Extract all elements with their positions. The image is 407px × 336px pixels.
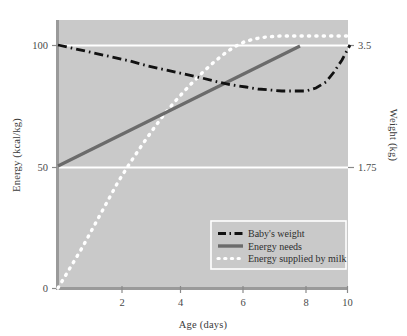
xtick-label-4: 4 [178, 297, 184, 308]
xtick-label-6: 6 [240, 297, 245, 308]
xtick-label-2: 2 [119, 297, 124, 308]
ytick-label-50: 50 [38, 162, 49, 173]
plot-area-background [57, 20, 348, 290]
ytick-label-100: 100 [32, 40, 48, 51]
y-axis-title: Energy (kcal/kg) [11, 118, 23, 192]
chart-canvas: Baby's weight Energy needs Energy suppli… [0, 0, 407, 336]
y2tick-label-3-5: 3.5 [358, 40, 371, 51]
legend-label-energy-needs: Energy needs [248, 241, 302, 252]
y2-axis-title: Weight (kg) [387, 109, 399, 162]
y2tick-label-1-75: 1.75 [358, 162, 376, 173]
xtick-label-10: 10 [342, 297, 353, 308]
ytick-label-0: 0 [43, 283, 48, 294]
x-axis-title: Age (days) [179, 319, 228, 331]
chart-figure: Baby's weight Energy needs Energy suppli… [0, 0, 407, 336]
legend-label-energy-supplied-by-milk: Energy supplied by milk [248, 253, 346, 264]
xtick-label-8: 8 [303, 297, 308, 308]
legend-label-babys-weight: Baby's weight [248, 228, 305, 239]
